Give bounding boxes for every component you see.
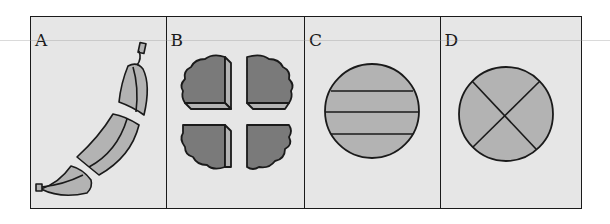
banana-icon bbox=[31, 17, 167, 210]
panel-d: D bbox=[441, 17, 581, 208]
panel-b: B bbox=[167, 17, 306, 208]
panel-a: A bbox=[31, 17, 167, 208]
scan-artifact-line bbox=[0, 40, 610, 41]
figure-frame: A B bbox=[30, 16, 582, 209]
cake-quarters-icon bbox=[167, 17, 306, 210]
circle-horizontal-strips-icon bbox=[305, 17, 441, 210]
circle-diagonal-quarters-icon bbox=[441, 17, 582, 210]
panel-c: C bbox=[305, 17, 441, 208]
